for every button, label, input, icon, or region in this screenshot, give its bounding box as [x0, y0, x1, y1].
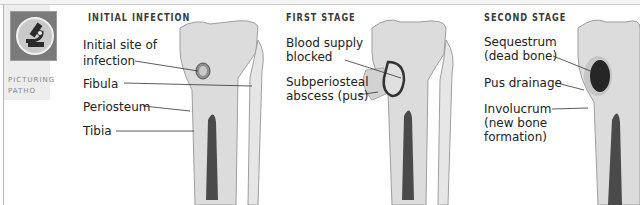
label-periosteum: Periosteum — [83, 100, 150, 114]
label-involucrum: Involucrum — [484, 102, 551, 116]
label-initial-site: Initial site of — [83, 38, 157, 52]
tibia-first-stage-illustration — [363, 20, 453, 205]
label-abscess-pus: abscess (pus) — [286, 89, 368, 103]
label-sequestrum: Sequestrum — [484, 35, 557, 49]
label-fibula: Fibula — [83, 77, 118, 91]
label-infection: infection — [83, 54, 135, 68]
stage-title-initial-infection: INITIAL INFECTION — [88, 12, 190, 23]
tibia-initial-infection-illustration — [180, 21, 263, 205]
stage-title-first-stage: FIRST STAGE — [286, 12, 356, 23]
label-subperiosteal: Subperiosteal — [286, 75, 368, 89]
label-new-bone: (new bone — [484, 116, 547, 130]
tibia-second-stage-illustration — [578, 20, 640, 205]
label-dead-bone: (dead bone) — [484, 49, 557, 63]
label-formation: formation) — [484, 130, 547, 144]
label-blocked: blocked — [286, 50, 332, 64]
label-blood-supply: Blood supply — [286, 36, 363, 50]
label-tibia: Tibia — [83, 124, 112, 138]
stage-title-second-stage: SECOND STAGE — [484, 12, 566, 23]
label-pus-drainage: Pus drainage — [484, 76, 562, 90]
